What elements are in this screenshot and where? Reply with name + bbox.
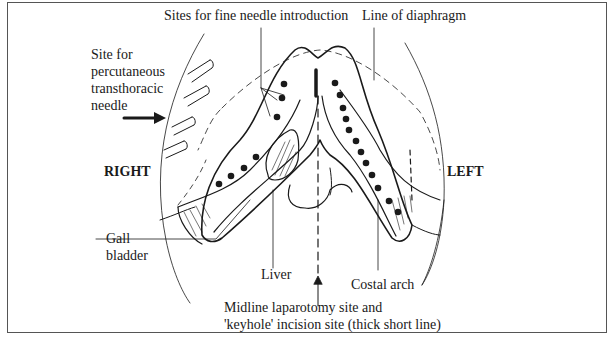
label-transthoracic-3: transthoracic bbox=[91, 80, 163, 97]
label-transthoracic-1: Site for bbox=[91, 46, 133, 63]
label-midline-2: 'keyhole' incision site (thick short lin… bbox=[224, 316, 441, 333]
label-costal-arch: Costal arch bbox=[351, 276, 414, 293]
label-gall-bladder-1: Gall bbox=[106, 230, 130, 247]
label-gall-bladder-2: bladder bbox=[106, 247, 148, 264]
label-transthoracic-2: percutaneous bbox=[91, 63, 165, 80]
label-left: LEFT bbox=[447, 163, 484, 180]
label-liver: Liver bbox=[261, 266, 291, 283]
gall-bladder bbox=[266, 130, 299, 180]
diaphragm-line bbox=[222, 50, 440, 170]
label-line-of-diaphragm: Line of diaphragm bbox=[362, 7, 466, 24]
label-fine-needle-sites: Sites for fine needle introduction bbox=[164, 7, 348, 24]
left-costal-arch bbox=[340, 90, 440, 200]
central-bulge bbox=[288, 184, 352, 208]
diaphragm-line-right bbox=[198, 110, 220, 150]
fine-needle-leader bbox=[261, 28, 284, 116]
label-transthoracic-4: needle bbox=[91, 97, 128, 114]
label-right: RIGHT bbox=[104, 163, 151, 180]
right-costal-arch bbox=[178, 100, 300, 207]
rib-tubes bbox=[164, 60, 213, 158]
needle-dots bbox=[216, 80, 402, 216]
right-body-contour bbox=[160, 34, 204, 303]
left-costal-lower bbox=[422, 200, 444, 285]
liver-outline bbox=[202, 46, 412, 241]
label-midline-1: Midline laparotomy site and bbox=[224, 299, 382, 316]
